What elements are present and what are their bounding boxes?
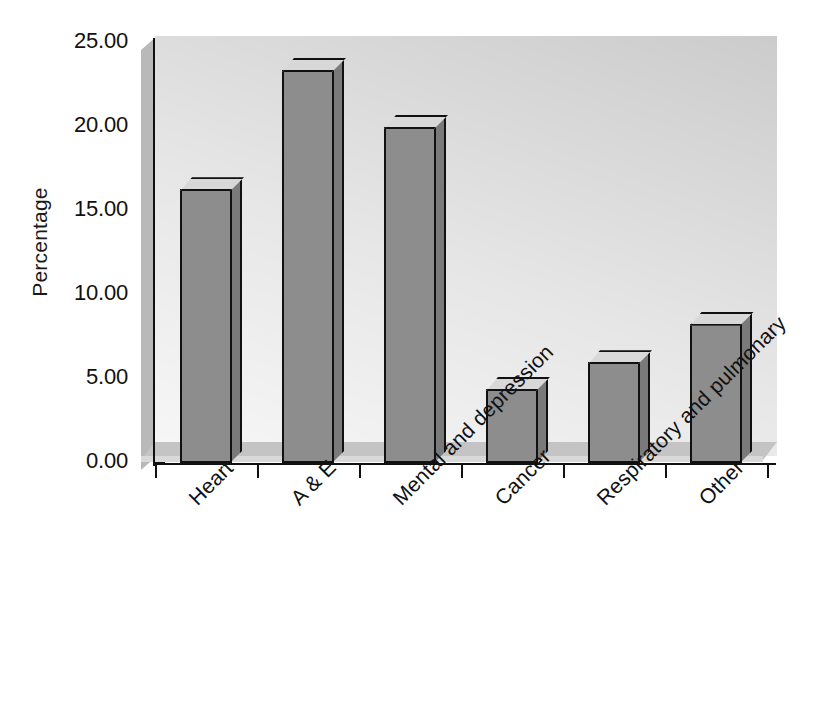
bar-column: [282, 70, 334, 463]
x-axis-line: [153, 463, 776, 465]
bar-front-face: [384, 127, 436, 463]
y-axis-tick-label: 15.00: [36, 196, 128, 222]
y-axis-tick-label: 25.00: [36, 28, 128, 54]
y-axis-tick-label: 20.00: [36, 112, 128, 138]
x-axis-tick-mark: [665, 465, 667, 478]
bar-column: [384, 127, 436, 463]
y-axis-line: [153, 38, 155, 466]
bar-column: [180, 189, 232, 463]
x-axis-tick-mark: [563, 465, 565, 478]
plot-wall-sheen: [155, 36, 777, 456]
x-axis-tick-mark: [461, 465, 463, 478]
bar-column: [588, 362, 640, 463]
y-axis-tick-label: 0.00: [36, 448, 128, 474]
bar-front-face: [282, 70, 334, 463]
y-axis-tick-label: 10.00: [36, 280, 128, 306]
bar-front-face: [180, 189, 232, 463]
y-axis-tick-label: 5.00: [36, 364, 128, 390]
y-axis-tick-labels: 0.005.0010.0015.0020.0025.00: [24, 0, 128, 480]
bar-front-face: [588, 362, 640, 463]
x-axis-tick-mark: [359, 465, 361, 478]
x-axis-tick-mark: [767, 465, 769, 478]
x-axis-tick-mark: [155, 465, 157, 478]
bar-chart: Percentage 0.005.0010.0015.0020.0025.00 …: [0, 0, 815, 711]
x-axis-tick-mark: [257, 465, 259, 478]
